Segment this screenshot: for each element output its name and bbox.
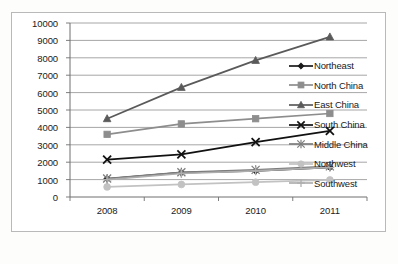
legend-item-southwest[interactable]: Southwest — [288, 174, 384, 194]
legend-marker-x-icon — [288, 118, 314, 132]
legend-marker-circle-icon — [288, 157, 314, 171]
y-axis-tick-1000: 1000 — [12, 174, 58, 185]
y-axis-tick-9000: 9000 — [12, 35, 58, 46]
legend-item-east-china[interactable]: East China — [288, 95, 384, 115]
y-axis-tick-2000: 2000 — [12, 157, 58, 168]
y-axis-tick-10000: 10000 — [12, 18, 58, 29]
legend-label: Northeast — [314, 60, 354, 71]
y-axis-tick-6000: 6000 — [12, 87, 58, 98]
legend-item-north-china[interactable]: North China — [288, 76, 384, 96]
x-axis-tick-2010: 2010 — [245, 205, 266, 216]
legend-label: East China — [314, 99, 359, 110]
legend-marker-asterisk-icon — [288, 137, 314, 151]
x-axis-tick-2009: 2009 — [171, 205, 192, 216]
y-axis-tick-7000: 7000 — [12, 70, 58, 81]
y-axis-tick-8000: 8000 — [12, 52, 58, 63]
y-axis-tick-0: 0 — [12, 192, 58, 203]
legend-marker-triangle-icon — [288, 98, 314, 112]
chart-legend: NortheastNorth ChinaEast ChinaSouth Chin… — [288, 56, 384, 193]
x-axis-tick-2011: 2011 — [320, 205, 340, 216]
legend-label: South China — [314, 119, 365, 130]
legend-marker-square-icon — [288, 78, 314, 92]
legend-label: Northwest — [314, 158, 355, 169]
figure-container: 0100020003000400050006000700080009000100… — [0, 0, 398, 264]
y-axis-tick-5000: 5000 — [12, 105, 58, 116]
legend-item-northeast[interactable]: Northeast — [288, 56, 384, 76]
x-axis-tick-2008: 2008 — [97, 205, 118, 216]
legend-label: Middle China — [314, 139, 368, 150]
y-axis-tick-4000: 4000 — [12, 122, 58, 133]
legend-item-south-china[interactable]: South China — [288, 115, 384, 135]
legend-label: North China — [314, 80, 363, 91]
legend-label: Southwest — [314, 178, 357, 189]
legend-marker-plus-icon — [288, 176, 314, 190]
legend-item-middle-china[interactable]: Middle China — [288, 134, 384, 154]
y-axis-tick-3000: 3000 — [12, 139, 58, 150]
legend-item-northwest[interactable]: Northwest — [288, 154, 384, 174]
legend-marker-diamond-icon — [288, 59, 314, 73]
